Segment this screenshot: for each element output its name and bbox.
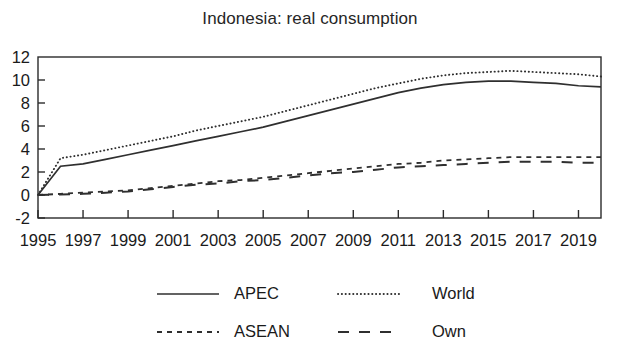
y-axis-tick-label: -2	[15, 209, 30, 227]
y-axis-tick-label: 8	[21, 94, 30, 112]
chart-legend: APECWorldASEANOwn	[157, 284, 475, 340]
x-axis-tick-label: 2007	[290, 231, 327, 249]
y-axis-tick-label: 6	[21, 117, 30, 135]
legend-label-world: World	[432, 284, 475, 302]
y-axis-tick-label: 0	[21, 186, 30, 204]
data-series-group	[38, 71, 601, 195]
x-axis-tick-label: 1997	[65, 231, 102, 249]
series-line-apec	[38, 81, 601, 195]
x-axis-tick-label: 2005	[245, 231, 282, 249]
y-axis-tick-label: 2	[21, 163, 30, 181]
axis-tick-marks	[38, 80, 578, 218]
x-axis-tick-label: 2017	[515, 231, 552, 249]
x-axis-tick-label: 2015	[470, 231, 507, 249]
chart-plot: -2024681012 1995199719992001200320052007…	[0, 0, 620, 351]
series-line-asean	[38, 157, 601, 195]
x-axis-tick-label: 2019	[560, 231, 597, 249]
x-axis-tick-label: 2001	[155, 231, 192, 249]
y-axis-tick-label: 10	[12, 71, 30, 89]
y-axis-tick-labels: -2024681012	[12, 48, 30, 227]
y-axis-tick-label: 12	[12, 48, 30, 66]
y-axis-tick-label: 4	[21, 140, 30, 158]
x-axis-tick-label: 1999	[110, 231, 147, 249]
x-axis-tick-label: 2013	[425, 231, 462, 249]
chart-container: Indonesia: real consumption -2024681012 …	[0, 0, 620, 351]
x-axis-tick-label: 2003	[200, 231, 237, 249]
legend-label-asean: ASEAN	[234, 322, 290, 340]
x-axis-tick-label: 2011	[381, 231, 416, 249]
legend-label-apec: APEC	[234, 284, 279, 302]
x-axis-tick-label: 2009	[335, 231, 372, 249]
x-axis-tick-label: 1995	[20, 231, 57, 249]
series-line-world	[38, 71, 601, 195]
x-axis-tick-labels: 1995199719992001200320052007200920112013…	[20, 231, 597, 249]
legend-label-own: Own	[432, 322, 466, 340]
